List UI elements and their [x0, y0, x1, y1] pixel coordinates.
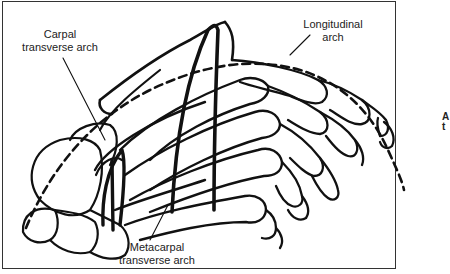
label-carpal-transverse-arch: Carpal transverse arch [20, 28, 100, 54]
phalanges [232, 60, 394, 248]
cropped-side-text: A t [442, 112, 449, 132]
dorsal-outline [100, 22, 234, 114]
label-metacarpal-transverse-arch: Metacarpal transverse arch [108, 241, 206, 267]
label-longitudinal-arch: Longitudinal arch [298, 18, 368, 44]
